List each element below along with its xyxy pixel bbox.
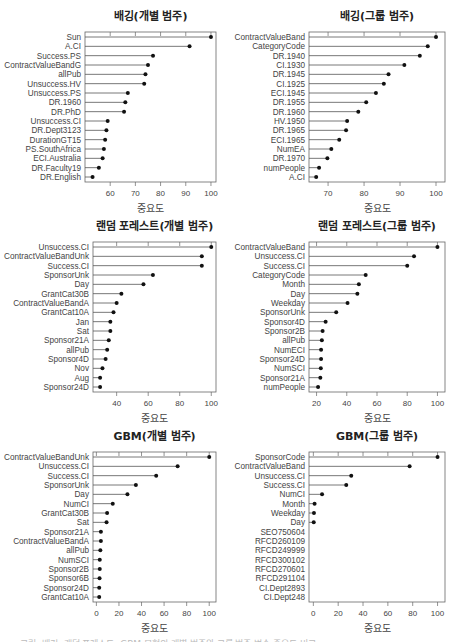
data-point — [320, 492, 324, 496]
category-label: PS.SouthAfrica — [25, 145, 81, 154]
x-tick-label: 100 — [205, 399, 219, 408]
category-label: HV.1950 — [274, 117, 306, 126]
data-point — [98, 548, 102, 552]
data-point — [321, 329, 325, 333]
data-point — [382, 82, 386, 86]
data-point — [418, 54, 422, 58]
category-label: DR.1965 — [273, 126, 306, 135]
data-point — [108, 329, 112, 333]
category-label: Aug — [74, 374, 89, 383]
data-point — [146, 63, 150, 67]
data-point — [325, 156, 329, 160]
data-point — [107, 338, 111, 342]
category-label: SponsorCode — [255, 453, 306, 462]
category-label: numPeople — [264, 383, 306, 392]
category-label: CI.1925 — [276, 80, 305, 89]
category-label: Sponsor24D — [43, 584, 89, 593]
category-label: Success.CI — [48, 472, 89, 481]
data-point — [318, 376, 322, 380]
category-label: Unsuccess.CI — [254, 472, 305, 481]
plot-area — [85, 32, 216, 182]
data-point — [97, 586, 101, 590]
category-label: GrantCat30B — [41, 290, 89, 299]
x-tick-label: 20 — [334, 609, 343, 618]
category-label: Day — [74, 490, 89, 499]
data-point — [402, 63, 406, 67]
data-point — [123, 100, 127, 104]
data-point — [320, 338, 324, 342]
data-point — [209, 35, 213, 39]
category-label: Unsuccess.CI — [38, 243, 89, 252]
category-label: SponsorUnk — [44, 481, 90, 490]
category-label: allPub — [66, 346, 89, 355]
category-label: Sponsor4D — [264, 318, 305, 327]
category-label: CI.Dept248 — [264, 593, 306, 602]
data-point — [312, 520, 316, 524]
x-tick-label: 90 — [181, 189, 190, 198]
x-tick-label: 20 — [312, 399, 321, 408]
data-point — [344, 483, 348, 487]
plot-area — [309, 452, 445, 602]
x-tick-label: 100 — [431, 609, 445, 618]
category-label: NumCI — [280, 490, 305, 499]
category-label: SEO750604 — [260, 528, 305, 537]
data-point — [98, 376, 102, 380]
category-label: Unsuccess.CI — [254, 252, 305, 261]
data-point — [126, 91, 130, 95]
data-point — [200, 254, 204, 258]
data-point — [434, 35, 438, 39]
category-label: Success.CI — [264, 262, 305, 271]
x-tick-label: 80 — [175, 399, 184, 408]
category-label: ContractValueBandG — [4, 61, 81, 70]
category-label: numPeople — [264, 164, 306, 173]
data-point — [200, 264, 204, 268]
data-point — [345, 119, 349, 123]
category-label: Success.PS — [37, 52, 82, 61]
data-point — [334, 310, 338, 314]
category-label: allPub — [58, 70, 81, 79]
category-label: NumECI — [274, 346, 305, 355]
data-point — [122, 110, 126, 114]
category-label: Sponsor2B — [48, 565, 89, 574]
category-label: DR.1970 — [273, 154, 306, 163]
category-label: DR.1940 — [273, 52, 306, 61]
x-tick-label: 70 — [324, 189, 333, 198]
category-label: CategoryCode — [252, 42, 305, 51]
data-point — [436, 455, 440, 459]
chart-title: GBM(개별 범주) — [113, 429, 195, 443]
data-point — [405, 264, 409, 268]
category-label: Unsuccess.HV — [27, 80, 81, 89]
category-label: Sponsor2B — [264, 327, 305, 336]
data-point — [104, 128, 108, 132]
category-label: GrantCat30B — [41, 509, 89, 518]
category-label: Success.CI — [48, 262, 89, 271]
data-point — [97, 166, 101, 170]
data-point — [176, 464, 180, 468]
category-label: Sponsor21A — [44, 336, 90, 345]
category-label: RFCD249999 — [255, 546, 306, 555]
data-point — [115, 301, 119, 305]
category-label: GrantCat10A — [41, 593, 89, 602]
category-label: A.CI — [289, 173, 305, 182]
category-label: DR.Dept3123 — [31, 126, 81, 135]
data-point — [344, 128, 348, 132]
data-point — [313, 502, 317, 506]
category-label: RFCD270601 — [255, 565, 306, 574]
category-label: Unsuccess.CI — [30, 117, 81, 126]
data-point — [103, 138, 107, 142]
chart-title: 랜덤 포레스트(그룹 범주) — [318, 219, 436, 233]
data-point — [99, 530, 103, 534]
x-tick-label: 60 — [144, 399, 153, 408]
x-tick-label: 60 — [106, 189, 115, 198]
category-label: Nov — [74, 364, 89, 373]
data-point — [355, 292, 359, 296]
data-point — [151, 273, 155, 277]
data-point — [98, 385, 102, 389]
data-point — [316, 385, 320, 389]
data-point — [317, 166, 321, 170]
data-point — [98, 558, 102, 562]
category-label: RFCD300102 — [255, 556, 306, 565]
data-point — [374, 91, 378, 95]
data-point — [349, 474, 353, 478]
category-label: GrantCat10A — [41, 308, 89, 317]
